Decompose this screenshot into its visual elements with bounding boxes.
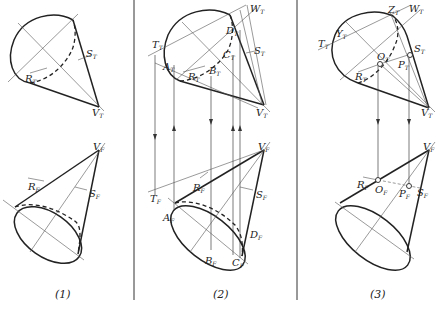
panel-2: WT DT TT ST CT AT BT RT VT (148, 3, 270, 301)
label-r-front-2: RF (192, 182, 206, 194)
label-t-top-3: TT (318, 38, 330, 50)
label-s-front: SF (89, 188, 101, 200)
panel-1-front-view: VF RF SF (3, 141, 105, 275)
label-w-top-3: WT (409, 3, 424, 15)
label-p-front: PF (398, 188, 411, 200)
caption-panel-2: (2) (213, 288, 229, 301)
point-o-front (376, 178, 381, 183)
label-r-top-3: RT (354, 71, 368, 83)
label-t-front: TF (150, 193, 162, 205)
label-o-front: OF (375, 184, 388, 196)
label-p-top: PT (397, 59, 410, 71)
label-c-top: CT (223, 49, 236, 61)
label-r-top-2: RT (187, 71, 201, 83)
caption-panel-3: (3) (370, 288, 386, 301)
label-o-top: OT (377, 51, 390, 63)
label-v-front-2: VF (258, 141, 270, 153)
cone-projection-diagram: ST RT VT VF RF SF (1) (0, 0, 439, 309)
panel-3-front-view: VF RF OF PF SF (325, 141, 435, 282)
panel-2-top-view: WT DT TT ST CT AT BT RT VT (148, 3, 270, 119)
label-a-front: AF (162, 212, 175, 224)
point-p-top (408, 53, 413, 58)
caption-panel-1: (1) (55, 288, 71, 301)
label-b-front: BF (204, 255, 217, 267)
label-s-top-3: ST (414, 43, 426, 55)
label-y-top: YT (336, 28, 348, 40)
point-o-top (378, 62, 383, 67)
point-p-front (407, 184, 412, 189)
label-z-top: ZT (387, 4, 400, 16)
label-d-front: DF (249, 229, 263, 241)
label-r-front: RF (27, 181, 41, 193)
label-v-front-3: VF (423, 141, 435, 153)
label-t-top: TT (152, 39, 164, 51)
label-s-top: ST (86, 48, 98, 60)
label-d-top: DT (225, 25, 239, 37)
label-s-front-3: SF (417, 187, 429, 199)
label-r-front-3: RF (356, 179, 370, 191)
label-v-top-3: VT (421, 107, 433, 119)
panel-3: ZT WT TT YT ST OT PT RT VT VF (318, 3, 435, 301)
label-b-top: BT (208, 65, 221, 77)
panel-2-front-view: VF RF TF SF AF DF BF CF (148, 141, 270, 282)
panel-1-top-view: ST RT VT (8, 14, 104, 119)
label-a-top: AT (162, 61, 175, 73)
panel-3-top-view: ZT WT TT YT ST OT PT RT VT (318, 3, 435, 119)
label-r-top: RT (24, 73, 38, 85)
label-w-top: WT (250, 3, 265, 15)
label-c-front: CF (232, 257, 245, 269)
label-s-front-2: SF (256, 189, 268, 201)
label-v-top-2: VT (256, 107, 268, 119)
label-v-top: VT (92, 107, 104, 119)
label-v-front: VF (93, 141, 105, 153)
label-s-top-2: ST (254, 45, 266, 57)
panel-1: ST RT VT VF RF SF (1) (3, 14, 105, 301)
